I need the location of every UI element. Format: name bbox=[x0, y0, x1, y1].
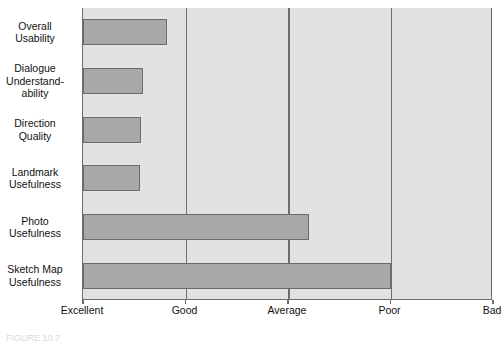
y-axis-label-line: Photo bbox=[0, 215, 74, 228]
bar-row bbox=[83, 117, 493, 143]
y-axis-label-line: Direction bbox=[0, 117, 74, 130]
y-axis-label: DirectionQuality bbox=[0, 117, 74, 142]
y-axis-label-line: Usefulness bbox=[0, 276, 74, 289]
bar bbox=[83, 165, 140, 191]
bar bbox=[83, 117, 141, 143]
y-axis-label-line: Sketch Map bbox=[0, 263, 74, 276]
y-axis-label-line: ability bbox=[0, 87, 74, 100]
bar bbox=[83, 214, 309, 240]
figure-caption: FIGURE 10.7 bbox=[6, 333, 60, 344]
y-axis-label: DialogueUnderstand-ability bbox=[0, 62, 74, 100]
y-axis-label-line: Understand- bbox=[0, 75, 74, 88]
y-axis-label: LandmarkUsefulness bbox=[0, 166, 74, 191]
gridline-average bbox=[288, 8, 290, 299]
bar-row bbox=[83, 19, 493, 45]
bar bbox=[83, 263, 391, 289]
x-axis-labels: ExcellentGoodAveragePoorBad bbox=[0, 303, 502, 323]
bar bbox=[83, 19, 167, 45]
gridline-good bbox=[186, 8, 188, 299]
bar-chart-figure: OverallUsabilityDialogueUnderstand-abili… bbox=[0, 0, 502, 346]
y-axis-label: Sketch MapUsefulness bbox=[0, 263, 74, 288]
y-axis-label-line: Quality bbox=[0, 130, 74, 143]
y-axis-label: PhotoUsefulness bbox=[0, 215, 74, 240]
y-axis-label-line: Landmark bbox=[0, 166, 74, 179]
bar-row bbox=[83, 263, 493, 289]
plot-area bbox=[82, 8, 492, 300]
bar-row bbox=[83, 165, 493, 191]
y-axis-label-line: Usefulness bbox=[0, 178, 74, 191]
y-axis-label-line: Usefulness bbox=[0, 227, 74, 240]
y-axis-label-line: Overall bbox=[0, 20, 74, 33]
gridline-poor bbox=[391, 8, 393, 299]
bar-row bbox=[83, 68, 493, 94]
bar bbox=[83, 68, 143, 94]
y-axis-label: OverallUsability bbox=[0, 20, 74, 45]
x-axis-label-bad: Bad bbox=[432, 303, 502, 317]
bar-row bbox=[83, 214, 493, 240]
y-axis-label-line: Usability bbox=[0, 32, 74, 45]
y-axis-label-line: Dialogue bbox=[0, 62, 74, 75]
